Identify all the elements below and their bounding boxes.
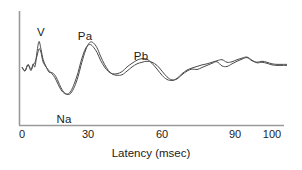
peak-label-pa: Pa [78, 30, 92, 42]
waveform-trace-1 [22, 41, 287, 94]
peak-label-na: Na [57, 113, 72, 125]
peak-label-v: V [37, 26, 45, 38]
x-tick-label-100: 100 [263, 128, 281, 140]
waveform-plot [0, 0, 302, 170]
figure-auditory-evoked-potential: V Pa Pb Na 0 30 60 90 100 Latency (msec) [0, 0, 302, 170]
waveform-trace-2 [22, 45, 287, 95]
x-tick-label-0: 0 [19, 128, 25, 140]
x-tick-label-90: 90 [229, 128, 241, 140]
x-tick-label-30: 30 [82, 128, 94, 140]
x-tick-label-60: 60 [156, 128, 168, 140]
x-axis-title: Latency (msec) [112, 147, 191, 159]
peak-label-pb: Pb [134, 50, 148, 62]
